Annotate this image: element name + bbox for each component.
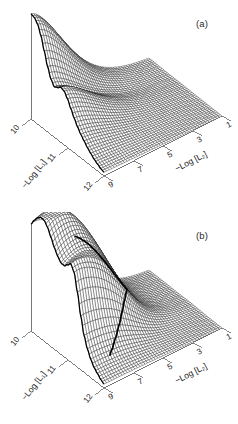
tick-label-right-0: 9 [107, 180, 116, 190]
figure-root: 10111297531−Log [L₁]−Log [L₂] (a) 101112… [0, 0, 238, 424]
tick-label-left-2: 12 [82, 392, 95, 405]
tick-label-right-4: 1 [225, 120, 234, 130]
tick-label-right-2: 5 [166, 150, 175, 160]
tick-label-left-1: 11 [45, 151, 58, 164]
surface-plot-b: 10111297531−Log [L₁]−Log [L₂] [0, 212, 238, 424]
panel-label-b: (b) [196, 230, 208, 241]
tick-label-right-1: 7 [136, 165, 145, 175]
tick-label-right-4: 1 [225, 332, 234, 342]
tick-label-right-3: 3 [195, 347, 204, 357]
panel-label-a: (a) [196, 18, 208, 29]
tick-label-left-2: 12 [82, 180, 95, 193]
surface-plot-a: 10111297531−Log [L₁]−Log [L₂] [0, 0, 238, 212]
tick-label-left-0: 10 [9, 335, 22, 348]
tick-left-2 [95, 388, 104, 395]
tick-left-0 [22, 119, 31, 126]
tick-label-right-2: 5 [166, 362, 175, 372]
panel-a: 10111297531−Log [L₁]−Log [L₂] (a) [0, 0, 238, 212]
tick-left-2 [95, 176, 104, 183]
wireframe-surface [31, 13, 222, 172]
axis-title-left: −Log [L₁] [19, 157, 48, 190]
axis-title-right: −Log [L₂] [173, 361, 208, 386]
tick-label-right-1: 7 [136, 377, 145, 387]
axis-title-right: −Log [L₂] [173, 149, 208, 174]
tick-left-0 [22, 331, 31, 338]
tick-label-right-3: 3 [195, 135, 204, 145]
tick-label-left-0: 10 [9, 123, 22, 136]
tick-left-1 [59, 148, 68, 155]
panel-b: 10111297531−Log [L₁]−Log [L₂] (b) [0, 212, 238, 424]
tick-left-1 [59, 360, 68, 367]
wireframe-surface [31, 212, 222, 384]
tick-label-left-1: 11 [45, 363, 58, 376]
tick-label-right-0: 9 [107, 392, 116, 402]
axis-title-left: −Log [L₁] [19, 369, 48, 402]
